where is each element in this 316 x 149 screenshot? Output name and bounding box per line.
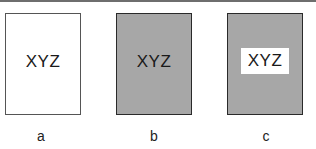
panel-a-caption: a	[31, 128, 51, 144]
panel-a-white-background: XYZ	[5, 13, 81, 115]
panel-c-text-on-white-box: XYZ	[241, 48, 290, 74]
panel-c-gray-background: XYZ	[227, 13, 303, 115]
panel-b-gray-background: XYZ	[116, 13, 192, 115]
panel-a-text: XYZ	[26, 53, 61, 70]
top-rule	[0, 0, 316, 2]
panel-b-text: XYZ	[137, 53, 172, 70]
panel-c-caption: c	[256, 128, 276, 144]
panel-b-caption: b	[144, 128, 164, 144]
